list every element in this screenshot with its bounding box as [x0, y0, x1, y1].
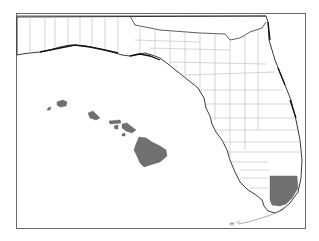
- molokai-island: [109, 120, 121, 124]
- range-map: [0, 0, 319, 241]
- hawaii-inset: [47, 100, 167, 167]
- kauai-island: [57, 100, 67, 107]
- miami-dade-county: [270, 176, 298, 206]
- niihau-island: [47, 107, 51, 110]
- lanai-island: [114, 125, 118, 129]
- oahu-island: [88, 111, 100, 120]
- florida-outline: [17, 16, 302, 213]
- big-island-hawaii: [134, 137, 167, 167]
- maui-island: [122, 123, 136, 133]
- kahoolawe-island: [122, 133, 125, 136]
